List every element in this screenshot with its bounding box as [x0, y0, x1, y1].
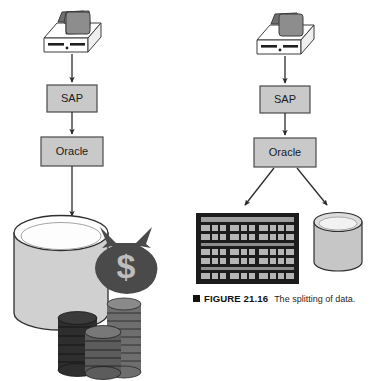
- large-database-cylinder: [14, 216, 108, 331]
- dollar-sign-label: $: [117, 247, 136, 285]
- right-oracle-box: Oracle: [254, 138, 316, 167]
- left-oracle-label: Oracle: [56, 145, 88, 157]
- right-sap-box: SAP: [260, 86, 310, 113]
- right-oracle-label: Oracle: [269, 146, 301, 158]
- figure-caption: FIGURE 21.16 The splitting of data.: [193, 293, 371, 304]
- database-cylinder-icon: [314, 213, 362, 272]
- coin-stack-front: [85, 326, 121, 380]
- right-flow-group: SAP Oracle: [196, 13, 362, 284]
- right-sap-label: SAP: [274, 93, 296, 105]
- caption-description: The splitting of data.: [274, 294, 355, 304]
- arrow-oracle-to-cylinder: [297, 168, 327, 205]
- caption-bullet-icon: [193, 295, 200, 302]
- caption-figure-label: FIGURE 21.16: [204, 293, 268, 304]
- desktop-computer-icon-right: [257, 13, 314, 54]
- desktop-computer-icon: [44, 11, 101, 52]
- left-oracle-box: Oracle: [41, 137, 103, 166]
- left-sap-box: SAP: [47, 85, 97, 112]
- left-sap-label: SAP: [61, 92, 83, 104]
- figure-container: SAP Oracle $: [0, 0, 379, 381]
- arrow-oracle-to-grid: [245, 168, 274, 205]
- figure-diagram: SAP Oracle $: [0, 0, 379, 381]
- data-grid-table-icon: [196, 213, 299, 284]
- left-flow-group: SAP Oracle $: [14, 11, 157, 380]
